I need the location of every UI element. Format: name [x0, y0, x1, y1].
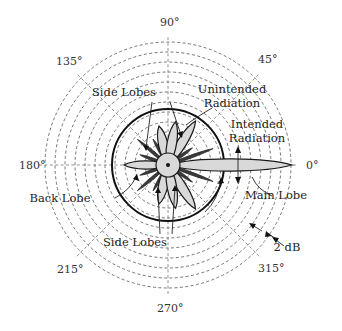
- angle-label: 135°: [56, 55, 83, 68]
- angle-label: 90°: [160, 16, 180, 29]
- angle-label: 315°: [258, 262, 285, 275]
- angle-label: 215°: [57, 263, 84, 276]
- antenna-origin: [166, 163, 170, 167]
- label-back-lobe: Back Lobe: [29, 191, 90, 205]
- main-lobe: [168, 159, 292, 171]
- radiation-pattern-diagram: 0°45°90°135°180°215°270°315° Side LobesU…: [0, 0, 342, 331]
- label-side-lobes-bottom: Side Lobes: [103, 235, 167, 249]
- label-scale: 2 dB: [274, 240, 301, 254]
- label-unintended-radiation: UnintendedRadiation: [198, 82, 267, 110]
- label-intended-radiation: IntendedRadiation: [229, 117, 286, 145]
- label-side-lobes-top: Side Lobes: [92, 85, 156, 99]
- label-main-lobe: Main Lobe: [245, 188, 307, 202]
- angle-label: 0°: [306, 159, 319, 172]
- angle-label: 45°: [258, 53, 278, 66]
- angle-label: 180°: [19, 159, 46, 172]
- angle-label: 270°: [157, 302, 184, 315]
